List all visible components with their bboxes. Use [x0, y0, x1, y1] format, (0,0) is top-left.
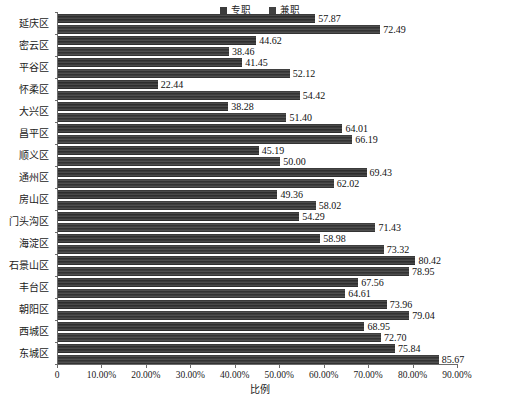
bar[interactable]	[58, 256, 415, 265]
bar-row: 66.19	[58, 135, 458, 145]
bar-row: 49.36	[58, 190, 458, 200]
bar[interactable]	[58, 300, 387, 309]
y-axis-label-4: 大兴区	[19, 106, 49, 117]
y-axis-label-6: 顺义区	[19, 150, 49, 161]
bar[interactable]	[58, 190, 277, 199]
y-axis-tick	[55, 78, 58, 79]
x-axis-tick-label-4: 40.00%	[220, 369, 249, 381]
bar[interactable]	[58, 69, 290, 78]
y-axis-category-labels: 延庆区密云区平谷区怀柔区大兴区昌平区顺义区通州区房山区门头沟区海淀区石景山区丰台…	[0, 12, 53, 364]
bar[interactable]	[58, 47, 229, 56]
bar-value-label: 62.02	[334, 179, 360, 189]
bar[interactable]	[58, 311, 409, 320]
y-axis-label-13: 朝阳区	[19, 304, 49, 315]
x-axis-tick-label-1: 10.00%	[87, 369, 116, 381]
bar-row: 57.87	[58, 14, 458, 24]
bar[interactable]	[58, 234, 320, 243]
bar[interactable]	[58, 168, 367, 177]
bar[interactable]	[58, 14, 315, 23]
bar-row: 85.67	[58, 355, 458, 365]
bar[interactable]	[58, 333, 381, 342]
y-axis-tick	[55, 144, 58, 145]
bar-group: 75.8485.67	[58, 342, 458, 364]
bar-row: 79.04	[58, 311, 458, 321]
bar-chart: 专职 兼职 延庆区密云区平谷区怀柔区大兴区昌平区顺义区通州区房山区门头沟区海淀区…	[0, 0, 519, 401]
bar[interactable]	[58, 113, 286, 122]
bar-row: 41.45	[58, 58, 458, 68]
bar[interactable]	[58, 289, 345, 298]
bar-group: 54.2971.43	[58, 210, 458, 232]
bar-value-label: 64.01	[342, 124, 368, 134]
bar[interactable]	[58, 80, 158, 89]
bar[interactable]	[58, 201, 316, 210]
y-axis-label-8: 房山区	[19, 194, 49, 205]
x-axis-title: 比例	[0, 384, 519, 396]
bar[interactable]	[58, 124, 342, 133]
x-axis-tick	[190, 364, 191, 368]
bar-value-label: 73.96	[387, 300, 413, 310]
bar-row: 38.28	[58, 102, 458, 112]
bar[interactable]	[58, 91, 300, 100]
bar-group: 80.4278.95	[58, 254, 458, 276]
bar[interactable]	[58, 267, 409, 276]
bar[interactable]	[58, 344, 395, 353]
y-axis-tick	[55, 56, 58, 57]
y-axis-tick	[55, 188, 58, 189]
bar[interactable]	[58, 212, 299, 221]
bar[interactable]	[58, 58, 242, 67]
bar-value-label: 54.29	[299, 212, 325, 222]
bar[interactable]	[58, 278, 358, 287]
x-axis-tick	[368, 364, 369, 368]
y-axis-label-5: 昌平区	[19, 128, 49, 139]
y-axis-label-12: 丰台区	[19, 282, 49, 293]
x-axis-tick-label-3: 30.00%	[176, 369, 205, 381]
bar[interactable]	[58, 322, 364, 331]
y-axis-tick	[55, 12, 58, 13]
x-axis-tick	[279, 364, 280, 368]
bar-row: 54.29	[58, 212, 458, 222]
x-axis-tick-label-7: 70.00%	[353, 369, 382, 381]
y-axis-tick	[55, 320, 58, 321]
bar-row: 44.62	[58, 36, 458, 46]
bar-group: 44.6238.46	[58, 34, 458, 56]
bar-row: 51.40	[58, 113, 458, 123]
bar[interactable]	[58, 36, 256, 45]
bar[interactable]	[58, 135, 352, 144]
bar-value-label: 85.67	[439, 355, 465, 365]
bar-row: 64.01	[58, 124, 458, 134]
y-axis-tick	[55, 166, 58, 167]
bar-value-label: 72.70	[381, 333, 407, 343]
bar-group: 38.2851.40	[58, 100, 458, 122]
bar[interactable]	[58, 157, 280, 166]
bar[interactable]	[58, 355, 439, 364]
bar[interactable]	[58, 245, 384, 254]
bar-value-label: 49.36	[277, 190, 303, 200]
y-axis-tick	[55, 276, 58, 277]
x-axis-tick-label-5: 50.00%	[265, 369, 294, 381]
bar-row: 78.95	[58, 267, 458, 277]
bar[interactable]	[58, 179, 334, 188]
bar[interactable]	[58, 223, 375, 232]
bar-value-label: 58.02	[316, 201, 342, 211]
bar[interactable]	[58, 146, 259, 155]
bar-row: 22.44	[58, 80, 458, 90]
bar-row: 62.02	[58, 179, 458, 189]
bar-group: 67.5664.61	[58, 276, 458, 298]
y-axis-label-7: 通州区	[19, 172, 49, 183]
bar-value-label: 38.28	[228, 102, 254, 112]
bar-row: 69.43	[58, 168, 458, 178]
bar-value-label: 80.42	[415, 256, 441, 266]
bar-row: 73.32	[58, 245, 458, 255]
x-axis-tick-labels: 010.00%20.00%30.00%40.00%50.00%60.00%70.…	[0, 369, 519, 383]
x-axis-tick	[457, 364, 458, 368]
x-axis-tick-label-2: 20.00%	[131, 369, 160, 381]
x-axis-tick-label-6: 60.00%	[309, 369, 338, 381]
y-axis-label-15: 东城区	[19, 348, 49, 359]
bar-group: 49.3658.02	[58, 188, 458, 210]
bar-value-label: 72.49	[380, 25, 406, 35]
y-axis-tick	[55, 232, 58, 233]
bar-row: 45.19	[58, 146, 458, 156]
bar[interactable]	[58, 102, 228, 111]
bar-group: 41.4552.12	[58, 56, 458, 78]
bar[interactable]	[58, 25, 380, 34]
